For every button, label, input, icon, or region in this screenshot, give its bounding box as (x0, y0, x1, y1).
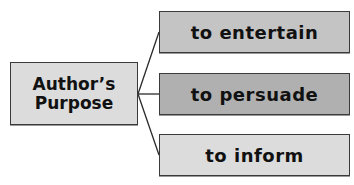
branch-node-to-inform: to inform (159, 134, 350, 176)
authors-purpose-diagram: Author’s Purpose to entertain to persuad… (0, 0, 354, 185)
root-label-line2: Purpose (33, 94, 116, 113)
connector-to-entertain (138, 32, 159, 94)
root-label-line1: Author’s (33, 75, 116, 94)
branch-node-to-persuade: to persuade (159, 73, 350, 115)
root-node-label: Author’s Purpose (33, 75, 116, 113)
branch-node-to-entertain: to entertain (159, 11, 350, 53)
branch-label: to entertain (191, 22, 319, 43)
connector-to-inform (138, 94, 159, 155)
branch-label: to inform (205, 145, 304, 166)
branch-label: to persuade (191, 84, 318, 105)
root-node-authors-purpose: Author’s Purpose (10, 62, 138, 125)
